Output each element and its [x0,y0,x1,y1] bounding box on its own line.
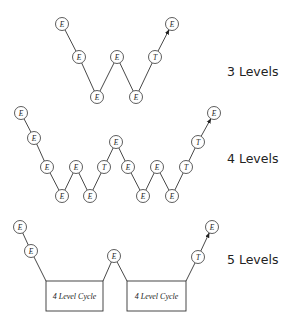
node-e: E [108,250,121,263]
svg-text:E: E [44,163,50,172]
node-e: E [84,190,97,203]
svg-text:E: E [94,93,100,102]
svg-text:E: E [17,223,23,232]
label-4-levels: 4 Levels [227,151,278,166]
svg-text:E: E [73,163,79,172]
label-5-levels: 5 Levels [227,252,278,267]
svg-text:E: E [154,163,160,172]
node-e: E [41,161,54,174]
node-e: E [73,51,86,64]
svg-text:E: E [209,223,215,232]
node-e: E [110,136,123,149]
node-e: E [70,161,83,174]
svg-text:E: E [59,20,65,29]
svg-text:E: E [211,109,217,118]
node-t: T [98,161,111,174]
node-e: E [166,18,179,31]
svg-text:E: E [140,192,146,201]
node-e: E [166,190,179,203]
svg-text:E: E [169,20,175,29]
svg-text:E: E [87,192,93,201]
node-e: E [91,91,104,104]
svg-text:E: E [113,138,119,147]
node-e: E [137,190,150,203]
svg-text:E: E [28,247,34,256]
node-e: E [122,161,135,174]
node-t: T [192,251,205,264]
node-e: E [151,161,164,174]
svg-text:E: E [59,192,65,201]
svg-text:E: E [125,163,131,172]
svg-text:E: E [18,109,24,118]
node-e: E [56,18,69,31]
box-4-level-cycle-2: 4 Level Cycle [127,281,186,311]
box-4-level-cycle-1: 4 Level Cycle [46,281,103,311]
node-e: E [206,221,219,234]
node-t: T [149,51,162,64]
svg-text:E: E [133,93,139,102]
node-e: E [15,107,28,120]
node-e: E [208,107,221,120]
box-label: 4 Level Cycle [135,292,179,301]
svg-text:E: E [31,134,37,143]
node-e: E [56,190,69,203]
node-t: T [180,161,193,174]
box-label: 4 Level Cycle [53,292,97,301]
edges [23,30,211,281]
node-e: E [130,91,143,104]
svg-text:E: E [111,252,117,261]
node-e: E [111,51,124,64]
svg-text:E: E [76,53,82,62]
node-e: E [25,245,38,258]
node-e: E [28,132,41,145]
node-e: E [14,221,27,234]
svg-text:E: E [114,53,120,62]
svg-text:E: E [169,192,175,201]
node-t: T [192,136,205,149]
nodes: EEEEETEEEEEEETEEEEETTEEEETE [14,18,221,264]
label-3-levels: 3 Levels [227,64,278,79]
